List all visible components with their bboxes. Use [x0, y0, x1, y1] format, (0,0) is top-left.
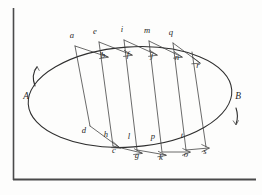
label-n: n	[175, 52, 179, 62]
label-e: e	[93, 26, 97, 36]
chord-a-d	[75, 46, 90, 126]
radial-chord-set	[75, 40, 206, 152]
label-t: t	[181, 130, 184, 140]
label-j: j	[150, 50, 154, 60]
label-o: o	[184, 149, 189, 159]
label-l: l	[128, 131, 131, 141]
orbit-diagram: a e i m q b f j n r d h l p t c g k o s …	[0, 0, 262, 195]
label-s: s	[203, 146, 207, 156]
label-c: c	[112, 145, 116, 155]
label-g: g	[135, 150, 140, 160]
label-A: A	[22, 91, 29, 101]
direction-arrowhead-down	[233, 120, 239, 125]
label-q: q	[169, 27, 174, 37]
label-i: i	[121, 24, 124, 34]
upper-tangent-set	[75, 40, 200, 64]
label-b: b	[101, 50, 106, 60]
label-m: m	[144, 25, 150, 35]
label-h: h	[104, 129, 108, 139]
label-k: k	[159, 152, 163, 162]
label-a: a	[70, 30, 74, 40]
figure-canvas: a e i m q b f j n r d h l p t c g k o s …	[0, 0, 262, 195]
label-d: d	[82, 125, 87, 135]
direction-arc-right	[236, 108, 238, 124]
label-p: p	[150, 131, 156, 141]
label-r: r	[196, 60, 200, 70]
label-B: B	[235, 91, 241, 101]
